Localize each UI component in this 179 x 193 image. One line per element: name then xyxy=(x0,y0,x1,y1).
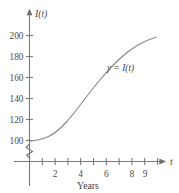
y-tick-label-160: 160 xyxy=(9,73,23,83)
x-tick-label-9: 9 xyxy=(143,169,148,179)
x-tick-label-2: 2 xyxy=(53,169,58,179)
y-tick-label-180: 180 xyxy=(9,52,23,62)
curve-label: y = I(t) xyxy=(106,63,134,74)
y-axis-arrow-icon xyxy=(27,9,33,16)
x-tick-label-8: 8 xyxy=(130,169,135,179)
graph-canvas: 200 180 160 140 120 100 2 4 6 8 9 I(t) t… xyxy=(0,0,179,193)
y-tick-label-120: 120 xyxy=(9,115,23,125)
y-tick-label-200: 200 xyxy=(9,31,23,41)
y-tick-label-100: 100 xyxy=(9,136,23,146)
x-axis-title: t xyxy=(170,156,173,167)
logistic-growth-figure: 200 180 160 140 120 100 2 4 6 8 9 I(t) t… xyxy=(0,0,179,193)
x-tick-label-6: 6 xyxy=(104,169,109,179)
x-axis-caption: Years xyxy=(77,180,99,191)
x-tick-label-4: 4 xyxy=(78,169,83,179)
y-axis-title: I(t) xyxy=(34,8,47,20)
x-axis-arrow-icon xyxy=(159,159,166,165)
logistic-curve xyxy=(30,37,156,141)
y-tick-label-140: 140 xyxy=(9,94,23,104)
